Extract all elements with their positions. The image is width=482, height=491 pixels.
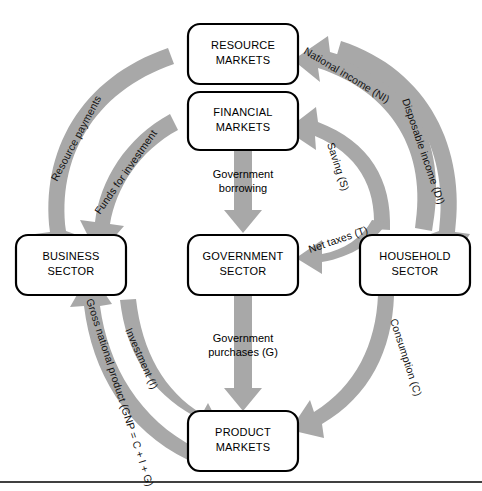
- flow-label-funds-for-investment: Funds for investment: [92, 127, 159, 216]
- node-label-line1: RESOURCE: [211, 39, 275, 51]
- gov-purchases-line2: purchases (G): [208, 346, 278, 358]
- flow-label-text: Gross national product (GNP = C + I + G): [84, 297, 156, 488]
- flow-label-text: Consumption (C): [388, 317, 424, 398]
- node-product-markets[interactable]: PRODUCT MARKETS: [188, 411, 298, 471]
- flow-label-gross-national-product: Gross national product (GNP = C + I + G): [84, 297, 156, 488]
- node-label-line1: GOVERNMENT: [203, 250, 284, 262]
- gov-borrowing-line2: borrowing: [219, 182, 267, 194]
- node-label-line1: HOUSEHOLD: [379, 250, 450, 262]
- node-label-line2: SECTOR: [392, 265, 439, 277]
- node-label-line2: MARKETS: [216, 441, 271, 453]
- node-label-line2: SECTOR: [220, 265, 267, 277]
- node-household-sector[interactable]: HOUSEHOLD SECTOR: [360, 235, 470, 295]
- flow-label-text: Funds for investment: [92, 127, 159, 216]
- gov-purchases-line1: Government: [213, 332, 274, 344]
- node-financial-markets[interactable]: FINANCIAL MARKETS: [188, 92, 298, 150]
- circular-flow-diagram: National income (NI) Disposable income (…: [0, 0, 482, 491]
- node-label-line1: BUSINESS: [42, 250, 99, 262]
- node-business-sector[interactable]: BUSINESS SECTOR: [16, 235, 126, 295]
- node-label-line1: FINANCIAL: [213, 106, 272, 118]
- node-label-line1: PRODUCT: [215, 426, 271, 438]
- node-label-line2: MARKETS: [216, 121, 271, 133]
- diagram-canvas: National income (NI) Disposable income (…: [0, 0, 482, 491]
- node-label-line2: SECTOR: [48, 265, 95, 277]
- node-government-sector[interactable]: GOVERNMENT SECTOR: [188, 235, 298, 295]
- gov-borrowing-line1: Government: [213, 168, 274, 180]
- node-resource-markets[interactable]: RESOURCE MARKETS: [188, 24, 298, 84]
- flow-label-text: Resource payments: [48, 93, 103, 183]
- flow-label-consumption: Consumption (C): [388, 317, 424, 398]
- flow-label-resource-payments: Resource payments: [48, 93, 103, 183]
- node-label-line2: MARKETS: [216, 54, 271, 66]
- flow-arrow-consumption: [290, 295, 394, 438]
